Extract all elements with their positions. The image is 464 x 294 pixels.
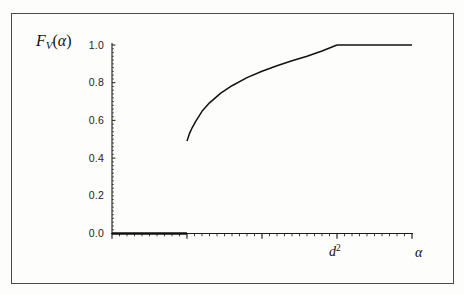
plot-canvas — [0, 0, 464, 294]
y-axis-tick-label: 0.8 — [78, 77, 104, 88]
data-curve-group — [112, 45, 412, 234]
y-axis — [112, 43, 115, 234]
y-axis-tick-label: 1.0 — [78, 40, 104, 51]
y-axis-tick-label: 0.4 — [78, 153, 104, 164]
data-series-line — [187, 45, 337, 141]
y-axis-tick-label: 0.2 — [78, 190, 104, 201]
figure-page: FV(α) d2 α 0.00.20.40.60.81.0 — [0, 0, 464, 294]
y-axis-tick-label: 0.6 — [78, 115, 104, 126]
y-axis-tick-label: 0.0 — [78, 228, 104, 239]
